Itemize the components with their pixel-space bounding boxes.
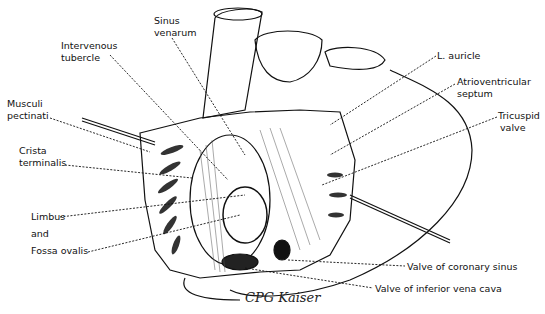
label-line: valve xyxy=(498,122,540,134)
anatomy-figure: Sinus venarum Intervenous tubercle Muscu… xyxy=(0,0,545,314)
probe-left xyxy=(82,118,155,142)
label-line: Atrioventricular xyxy=(457,76,531,88)
pectinate-muscles xyxy=(156,143,347,255)
label-av-septum: Atrioventricular septum xyxy=(457,76,531,100)
label-l-auricle: L. auricle xyxy=(437,50,480,62)
label-line: Sinus xyxy=(154,15,197,27)
aorta xyxy=(255,31,322,82)
leader-sinus-venarum xyxy=(172,38,245,155)
label-line: terminalis xyxy=(19,157,66,169)
label-crista-terminalis: Crista terminalis xyxy=(19,145,66,169)
label-limbus: Limbus xyxy=(31,211,65,223)
shading-hatch xyxy=(200,128,320,272)
label-line: venarum xyxy=(154,27,197,39)
left-auricle xyxy=(325,47,385,69)
label-line: tubercle xyxy=(61,52,118,64)
label-and: and xyxy=(31,228,49,240)
leader-intervenous-tubercle xyxy=(110,55,228,180)
leader-l-auricle xyxy=(330,56,436,125)
leader-tricuspid xyxy=(322,117,497,185)
label-valve-ivc: Valve of inferior vena cava xyxy=(375,283,502,295)
probe-right xyxy=(350,195,450,240)
label-line: Intervenous xyxy=(61,40,118,52)
label-line: Tricuspid xyxy=(498,110,540,122)
label-fossa-ovalis: Fossa ovalis xyxy=(31,245,88,257)
coronary-sinus-opening xyxy=(274,240,290,260)
leader-av-septum xyxy=(330,84,455,155)
ivc-opening xyxy=(222,254,258,270)
label-musculi-pectinati: Musculi pectinati xyxy=(7,98,49,122)
label-tricuspid-valve: Tricuspid valve xyxy=(498,110,540,134)
label-valve-coronary-sinus: Valve of coronary sinus xyxy=(407,261,517,273)
artist-signature: CPG Kaiser xyxy=(245,290,320,305)
label-line: septum xyxy=(457,88,531,100)
label-line: Musculi xyxy=(7,98,49,110)
label-intervenous-tubercle: Intervenous tubercle xyxy=(61,40,118,64)
leader-limbus xyxy=(60,195,245,217)
label-line: Crista xyxy=(19,145,66,157)
label-line: pectinati xyxy=(7,110,49,122)
label-sinus-venarum: Sinus venarum xyxy=(154,15,197,39)
